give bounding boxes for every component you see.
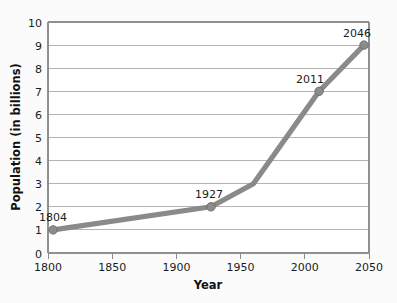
xtick-label-1900: 1900 [162, 261, 190, 274]
population-growth-line-chart: 10 9 8 7 6 5 4 3 2 1 0 1800 1850 1900 19… [0, 0, 397, 303]
xtick-label-1800: 1800 [34, 261, 62, 274]
chart-figure: 10 9 8 7 6 5 4 3 2 1 0 1800 1850 1900 19… [0, 0, 397, 303]
annotation-2011: 2011 [296, 73, 324, 86]
ytick-label-5: 5 [35, 132, 42, 145]
x-axis-title: Year [193, 278, 223, 292]
xtick-label-2050: 2050 [355, 261, 383, 274]
ytick-label-1: 1 [35, 224, 42, 237]
data-point-1804 [49, 226, 57, 234]
annotation-1927: 1927 [195, 188, 223, 201]
xtick-label-1850: 1850 [98, 261, 126, 274]
ytick-label-4: 4 [35, 155, 42, 168]
xtick-label-1950: 1950 [227, 261, 255, 274]
data-point-2046 [360, 41, 368, 49]
ytick-label-8: 8 [35, 63, 42, 76]
ytick-label-6: 6 [35, 109, 42, 122]
ytick-label-0: 0 [35, 248, 42, 261]
ytick-label-10: 10 [28, 17, 42, 30]
xtick-label-2000: 2000 [291, 261, 319, 274]
y-axis-title: Population (in billions) [9, 63, 23, 211]
ytick-label-3: 3 [35, 178, 42, 191]
ytick-label-9: 9 [35, 40, 42, 53]
annotation-2046: 2046 [343, 27, 371, 40]
ytick-label-7: 7 [35, 86, 42, 99]
data-point-2011 [315, 87, 323, 95]
annotation-1804: 1804 [39, 211, 67, 224]
data-point-1927 [207, 203, 215, 211]
